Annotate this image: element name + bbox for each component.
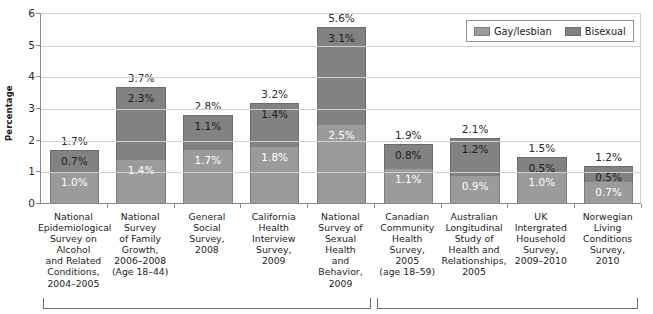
x-axis-tickmark — [441, 204, 442, 208]
category-label-line: Health — [238, 222, 309, 233]
x-axis-category-label: NationalEpidemiologicalSurvey onAlcohola… — [38, 211, 109, 289]
bar-value-label-gay-lesbian: 1.7% — [184, 154, 231, 166]
category-label-line: 2005 — [439, 266, 510, 277]
category-label-line: (age 18–59) — [372, 266, 443, 277]
stacked-bar-chart: Percentage 0123456 0.7%1.0%1.7%2.3%1.4%3… — [0, 0, 653, 314]
bar-segment-gay-lesbian: 0.7% — [584, 182, 633, 204]
category-label-line: Survey, — [372, 244, 443, 255]
bar-value-label-bisexual: 0.8% — [385, 149, 432, 161]
category-label-line: Survey, — [172, 233, 243, 244]
x-axis-tickmark — [307, 204, 308, 208]
bar-value-label-bisexual: 1.2% — [451, 143, 498, 155]
group-bracket-international — [377, 298, 638, 309]
bar-stack: 1.1%1.7% — [183, 115, 232, 204]
x-axis-category-label: CanadianCommunityHealthSurvey,2005(age 1… — [372, 211, 443, 278]
y-axis: 0123456 — [18, 13, 40, 203]
bar-total-label: 1.9% — [372, 129, 445, 141]
x-axis-tickmark — [374, 204, 375, 208]
category-label-line: Social — [172, 222, 243, 233]
x-axis-tickmark — [240, 204, 241, 208]
x-axis-category-label: UKIntergratedHouseholdSurvey,2009–2010 — [505, 211, 576, 266]
category-label-line: Health — [305, 244, 376, 255]
category-label-line: Behavior, — [305, 266, 376, 277]
x-axis-category-label: AustralianLongitudinalStudy ofHealth and… — [439, 211, 510, 278]
category-label-line: and Related — [38, 255, 109, 266]
legend-swatch-gay-lesbian-icon — [474, 27, 490, 36]
bar-segment-bisexual: 0.8% — [384, 144, 433, 169]
bar-stack: 1.2%0.9% — [450, 138, 499, 205]
bar-stack: 0.7%1.0% — [50, 150, 99, 204]
category-label-line: Survey, — [238, 244, 309, 255]
x-axis-category-label: NationalSurveyof FamilyGrowth,2006–2008(… — [105, 211, 176, 278]
bar-segment-gay-lesbian: 1.0% — [50, 172, 99, 204]
bar-value-label-bisexual: 3.1% — [318, 32, 365, 44]
bar-value-label-gay-lesbian: 0.7% — [585, 186, 632, 198]
category-label-line: Sexual — [305, 233, 376, 244]
bar-total-label: 1.2% — [572, 151, 645, 163]
bar-segment-bisexual: 0.5% — [584, 166, 633, 182]
bar-total-label: 1.5% — [505, 142, 578, 154]
category-label-line: Survey, — [572, 244, 643, 255]
x-axis-category-label: NationalSurvey ofSexualHealthandBehavior… — [305, 211, 376, 289]
bar-segment-gay-lesbian: 1.8% — [250, 147, 299, 204]
y-axis-title: Percentage — [2, 78, 16, 148]
category-label-line: 2006–2008 — [105, 255, 176, 266]
category-label-line: 2005 — [372, 255, 443, 266]
category-label-line: Study of — [439, 233, 510, 244]
bar-segment-bisexual: 1.2% — [450, 138, 499, 176]
category-label-line: of Family — [105, 233, 176, 244]
category-label-line: Survey, — [505, 244, 576, 255]
bar-segment-bisexual: 2.3% — [116, 87, 165, 160]
category-label-line: Conditions — [572, 233, 643, 244]
x-axis-tickmark — [641, 204, 642, 208]
bar-value-label-gay-lesbian: 1.1% — [385, 173, 432, 185]
bar-segment-gay-lesbian: 1.4% — [116, 160, 165, 204]
bar-segment-gay-lesbian: 2.5% — [317, 125, 366, 204]
category-label-line: Longitudinal — [439, 222, 510, 233]
gridline — [41, 46, 640, 47]
group-bracket-united-states — [43, 298, 371, 309]
bar-total-label: 2.1% — [438, 123, 511, 135]
category-label-line: 2009–2010 — [505, 255, 576, 266]
bar-segment-bisexual: 1.1% — [183, 115, 232, 150]
chart-legend: Gay/lesbian Bisexual — [466, 20, 634, 42]
category-label-line: Growth, — [105, 244, 176, 255]
legend-item-gay-lesbian: Gay/lesbian — [474, 26, 552, 37]
bar-value-label-gay-lesbian: 1.0% — [518, 176, 565, 188]
category-label-line: Survey on — [38, 233, 109, 244]
bar-total-label: 2.8% — [171, 100, 244, 112]
category-label-line: UK — [505, 211, 576, 222]
x-axis-tickmark — [107, 204, 108, 208]
category-label-line: Epidemiological — [38, 222, 109, 233]
bar-segment-gay-lesbian: 1.1% — [384, 169, 433, 204]
category-label-line: Canadian — [372, 211, 443, 222]
bar-stack: 2.3%1.4% — [116, 87, 165, 204]
legend-label-gay-lesbian: Gay/lesbian — [494, 26, 552, 37]
category-label-line: 2008 — [172, 244, 243, 255]
x-axis-category-label: GeneralSocialSurvey,2008 — [172, 211, 243, 255]
x-axis-tickmark — [174, 204, 175, 208]
bar-segment-bisexual: 3.1% — [317, 27, 366, 125]
gridline — [41, 77, 640, 78]
x-axis-tickmark — [574, 204, 575, 208]
category-label-line: General — [172, 211, 243, 222]
category-label-line: Living — [572, 222, 643, 233]
bar-stack: 3.1%2.5% — [317, 27, 366, 204]
category-label-line: Community — [372, 222, 443, 233]
legend-swatch-bisexual-icon — [565, 27, 581, 36]
legend-label-bisexual: Bisexual — [585, 26, 626, 37]
bar-value-label-gay-lesbian: 1.4% — [117, 164, 164, 176]
category-label-line: 2004–2005 — [38, 278, 109, 289]
category-label-line: California — [238, 211, 309, 222]
bar-value-label-bisexual: 1.1% — [184, 120, 231, 132]
bar-stack: 0.5%1.0% — [517, 157, 566, 204]
bar-segment-bisexual: 0.5% — [517, 157, 566, 173]
category-label-line: Australian — [439, 211, 510, 222]
x-axis-tickmarks — [40, 204, 641, 209]
category-label-line: 2009 — [238, 255, 309, 266]
category-label-line: Intergrated — [505, 222, 576, 233]
x-axis-tickmark — [507, 204, 508, 208]
bar-value-label-bisexual: 2.3% — [117, 92, 164, 104]
category-label-line: National — [105, 211, 176, 222]
category-label-line: Health — [372, 233, 443, 244]
